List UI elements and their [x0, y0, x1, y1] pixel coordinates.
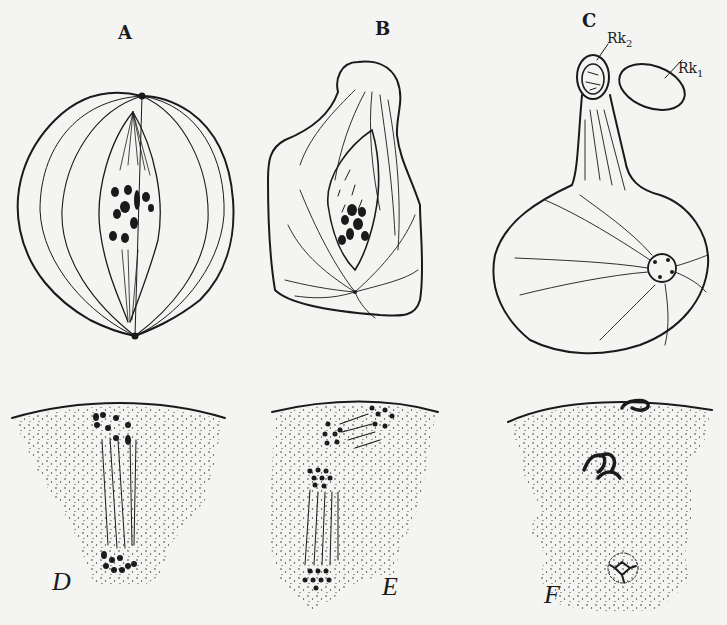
panel-f-cytoplasm: [510, 405, 710, 612]
annotation-rk1-base: Rk: [678, 60, 697, 76]
panel-c-nucleus-spots: [653, 258, 674, 279]
panel-b-cell: [268, 62, 422, 318]
panel-label-b: B: [375, 18, 390, 39]
panel-label-f: F: [544, 580, 560, 610]
panel-a-cell: [18, 93, 234, 339]
panel-b-chromosomes: [338, 204, 369, 294]
figure-plate: A B C D E F Rk2 Rk1: [0, 0, 727, 625]
annotation-rk1-sub: 1: [697, 68, 703, 79]
panel-label-e: E: [382, 572, 398, 602]
panel-a-chromosomes: [109, 185, 154, 243]
annotation-rk2-base: Rk: [607, 30, 626, 46]
panel-label-a: A: [118, 22, 132, 43]
annotation-rk2: Rk2: [607, 30, 632, 49]
annotation-rk2-sub: 2: [626, 38, 632, 49]
annotation-rk1: Rk1: [678, 60, 703, 79]
panel-c-cell: [493, 55, 708, 353]
panel-label-c: C: [582, 10, 596, 31]
figure-drawing: [0, 0, 727, 625]
panel-label-d: D: [52, 567, 71, 597]
panel-d-cytoplasm: [14, 407, 223, 586]
panel-e-cytoplasm: [268, 404, 436, 612]
